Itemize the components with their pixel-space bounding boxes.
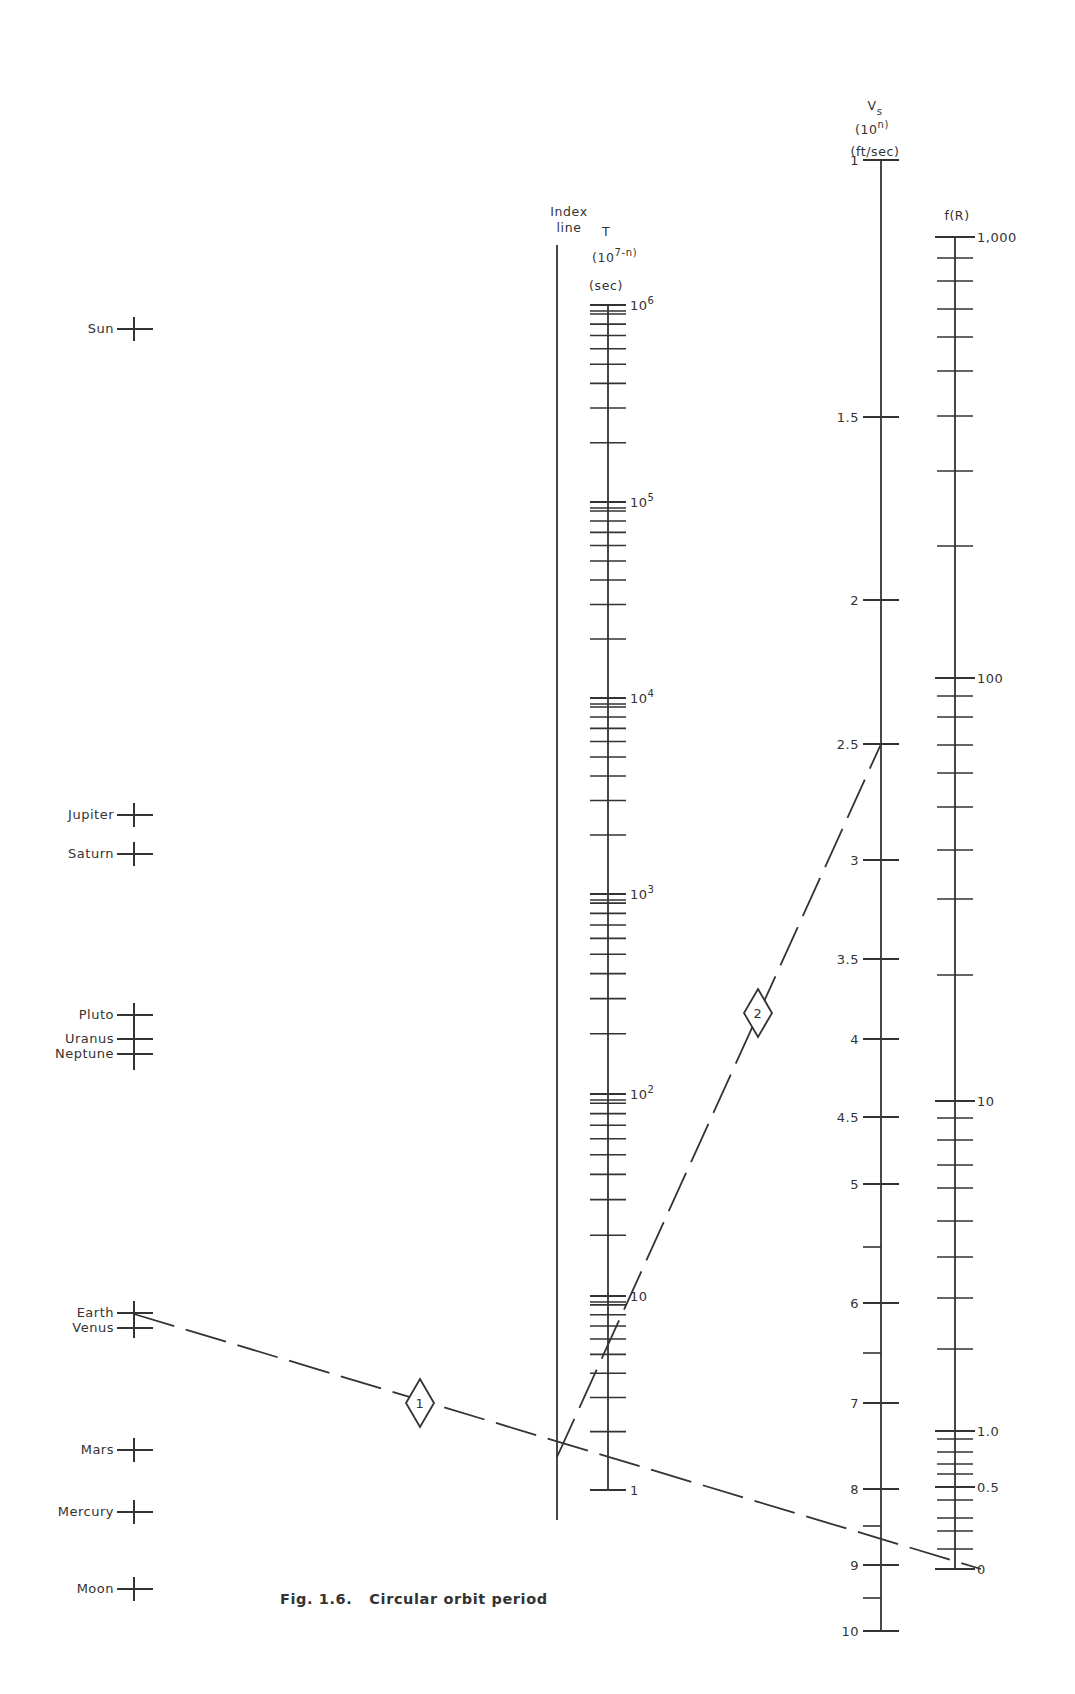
planet-label: Mercury [58,1504,114,1519]
vs-unit: (10n) [855,119,889,137]
planet-label: Venus [72,1320,114,1335]
planet-marker-moon: Moon [77,1577,153,1601]
vs-tick-label: 3 [850,853,859,868]
planet-label: Neptune [55,1046,114,1061]
t-major-label: 103 [630,884,654,902]
vs-tick-label: 2 [850,593,859,608]
planet-label: Moon [77,1581,114,1596]
fr-label: 1.0 [977,1424,999,1439]
orbit-period-nomogram: Indexline SunJupiterSaturnPlutoUranusNep… [0,0,1075,1694]
fr-label: 0.5 [977,1480,999,1495]
planet-marker-pluto: Pluto [79,1003,153,1027]
planet-label: Uranus [65,1031,114,1046]
period-t-scale: T(107-n)(sec)106105104103102101 [589,224,654,1498]
vs-tick-label: 8 [850,1482,859,1497]
planet-marker-jupiter: Jupiter [67,803,153,827]
index-line: Indexline [550,204,587,1520]
t-unit: (107-n) [592,247,637,265]
planet-marker-mercury: Mercury [58,1500,153,1524]
planet-marker-sun: Sun [88,317,153,341]
planet-axis: SunJupiterSaturnPlutoUranusNeptuneEarthV… [55,317,153,1601]
fr-title: f(R) [944,208,969,223]
planet-label: Saturn [68,846,114,861]
planet-label: Earth [77,1305,114,1320]
planet-label: Sun [88,321,114,336]
fr-label: 1,000 [977,230,1017,245]
vs-tick-label: 4.5 [837,1110,859,1125]
fr-label: 0 [977,1562,986,1577]
t-major-label: 102 [630,1084,654,1102]
index-label: line [557,220,582,235]
fr-scale: f(R)1,000100101.00.50 [935,208,1017,1577]
vs-tick-label: 10 [841,1624,859,1639]
planet-label: Mars [81,1442,114,1457]
fr-label: 10 [977,1094,995,1109]
vs-tick-label: 9 [850,1558,859,1573]
planet-marker-mars: Mars [81,1438,153,1462]
velocity-vs-scale: Vs(10n)(ft/sec)11.522.533.544.55678910 [837,98,900,1639]
t-unit-sec: (sec) [589,278,623,293]
t-major-label: 105 [630,492,654,510]
t-title: T [601,224,610,239]
planet-label: Jupiter [67,807,114,822]
step-number: 2 [754,1006,763,1021]
step-number: 1 [416,1396,425,1411]
vs-tick-label: 2.5 [837,737,859,752]
index-label: Index [550,204,587,219]
t-major-label: 106 [630,295,654,313]
fr-label: 100 [977,671,1003,686]
planet-marker-neptune: Neptune [55,1046,153,1070]
vs-tick-label: 1.5 [837,410,859,425]
vs-tick-label: 7 [850,1396,859,1411]
planet-label: Pluto [79,1007,114,1022]
vs-title: Vs [868,98,883,117]
t-major-label: 1 [630,1483,639,1498]
t-major-label: 104 [630,688,654,706]
figure-caption: Fig. 1.6. Circular orbit period [280,1591,548,1607]
vs-tick-label: 5 [850,1177,859,1192]
vs-tick-label: 3.5 [837,952,859,967]
vs-tick-label: 4 [850,1032,859,1047]
vs-tick-label: 6 [850,1296,859,1311]
vs-tick-label: 1 [850,153,859,168]
planet-marker-saturn: Saturn [68,842,153,866]
